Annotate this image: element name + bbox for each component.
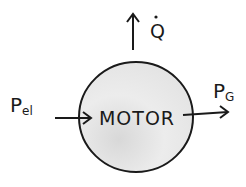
motor-label: MOTOR	[99, 107, 175, 129]
heat-label: Q	[150, 20, 165, 42]
input-label: Pel	[10, 93, 33, 118]
motor-energy-diagram: Q Pel PG MOTOR	[0, 0, 246, 187]
heat-dot	[154, 15, 157, 18]
output-label: PG	[213, 79, 234, 104]
input-arrow	[55, 112, 91, 124]
heat-arrow	[127, 14, 139, 50]
